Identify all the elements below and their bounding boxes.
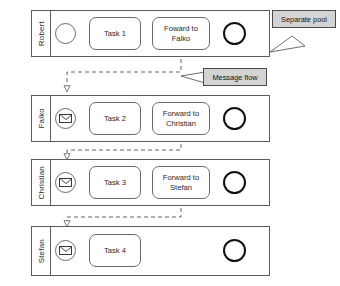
pool-label-falko: Falko	[32, 96, 51, 141]
envelope-icon	[59, 246, 72, 255]
callout-leader-message-flow	[181, 72, 205, 83]
pool-label-text: Christian	[37, 166, 46, 199]
task-label: Task 3	[104, 178, 126, 188]
task-3[interactable]: Task 3	[89, 166, 141, 199]
annotation-label: Message flow	[212, 73, 257, 82]
annotation-message-flow[interactable]: Message flow	[203, 68, 267, 86]
end-event-christian[interactable]	[223, 171, 246, 194]
pool-label-text: Robert	[37, 21, 46, 46]
task-label: Forward toStefan	[163, 173, 199, 193]
annotation-label: Separate pool	[281, 15, 327, 24]
pool-label-text: Falko	[37, 108, 46, 129]
annotation-separate-pool[interactable]: Separate pool	[272, 10, 336, 28]
pool-label-text: Stefan	[37, 239, 46, 263]
end-event-falko[interactable]	[223, 107, 246, 130]
task-label: Task 4	[104, 246, 126, 256]
pool-label-robert: Robert	[32, 11, 51, 56]
start-event-robert[interactable]	[55, 23, 76, 44]
message-start-event-christian[interactable]	[55, 172, 76, 193]
message-start-event-stefan[interactable]	[55, 240, 76, 261]
task-2[interactable]: Task 2	[89, 102, 141, 135]
envelope-icon	[59, 178, 72, 187]
envelope-icon	[59, 114, 72, 123]
message-start-event-falko[interactable]	[55, 108, 76, 129]
task-1[interactable]: Task 1	[89, 17, 141, 50]
end-event-stefan[interactable]	[223, 239, 246, 262]
task-forward-to-stefan[interactable]: Forward toStefan	[152, 166, 210, 199]
pool-label-stefan: Stefan	[32, 227, 51, 275]
task-label: Task 1	[104, 29, 126, 39]
callout-leader-separate-pool	[270, 36, 305, 52]
pool-label-christian: Christian	[32, 160, 51, 205]
task-forward-to-falko[interactable]: Foward toFalko	[152, 17, 210, 50]
task-label: Foward toFalko	[164, 24, 198, 44]
task-label: Forward toChristian	[163, 109, 199, 129]
end-event-robert[interactable]	[223, 22, 246, 45]
task-label: Task 2	[104, 114, 126, 124]
task-4[interactable]: Task 4	[89, 234, 141, 267]
task-forward-to-christian[interactable]: Forward toChristian	[152, 102, 210, 135]
bpmn-diagram-canvas: Robert Task 1 Foward toFalko Falko Task …	[0, 0, 340, 286]
